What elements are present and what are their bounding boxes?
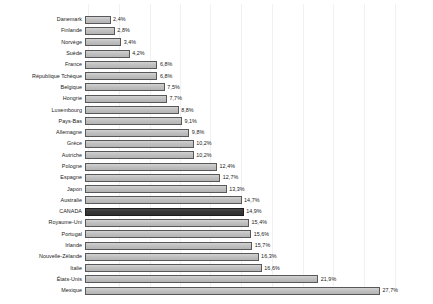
bar-zone: 16,3% [85, 251, 433, 262]
bar [85, 275, 318, 283]
bar-zone: 4,2% [85, 48, 433, 59]
bar-value-label: 7,5% [167, 84, 180, 91]
chart-row: Portugal15,6% [0, 229, 433, 240]
chart-row: République Tchèque6,8% [0, 70, 433, 81]
bar-value-label: 4,2% [132, 50, 145, 57]
category-label: Grèce [0, 140, 85, 147]
bar-zone: 10,2% [85, 138, 433, 149]
bar-zone: 16,6% [85, 263, 433, 274]
bar-value-label: 15,7% [255, 242, 271, 249]
bar-value-label: 7,7% [170, 95, 183, 102]
bar [85, 253, 259, 261]
category-label: Nouvelle-Zélande [0, 253, 85, 260]
chart-row: Espagne12,7% [0, 172, 433, 183]
bar-zone: 8,8% [85, 104, 433, 115]
chart-row: Mexique27,7% [0, 285, 433, 296]
bar [85, 196, 242, 204]
chart-row: Australie14,7% [0, 195, 433, 206]
bar [85, 117, 182, 125]
bar-zone: 14,9% [85, 206, 433, 217]
bar-zone: 7,7% [85, 93, 433, 104]
bar-value-label: 10,2% [196, 140, 212, 147]
category-label: Suède [0, 50, 85, 57]
category-label: Royaume-Uni [0, 219, 85, 226]
bar [85, 151, 194, 159]
horizontal-bar-chart: Danemark2,4%Finlande2,8%Norvège3,4%Suède… [0, 0, 433, 304]
bar-value-label: 12,4% [220, 163, 236, 170]
chart-row: Allemagne9,8% [0, 127, 433, 138]
bar-zone: 6,8% [85, 59, 433, 70]
chart-row: Royaume-Uni15,4% [0, 217, 433, 228]
chart-row: Nouvelle-Zélande16,3% [0, 251, 433, 262]
category-label: Hongrie [0, 95, 85, 102]
category-label: France [0, 61, 85, 68]
category-label: Pologne [0, 163, 85, 170]
bar-value-label: 12,7% [223, 174, 239, 181]
bar [85, 185, 227, 193]
bar-zone: 2,8% [85, 25, 433, 36]
chart-row: Autriche10,2% [0, 150, 433, 161]
bar [85, 83, 165, 91]
category-label: Belgique [0, 84, 85, 91]
bar-value-label: 8,8% [181, 107, 194, 114]
bar [85, 27, 115, 35]
bar-zone: 3,4% [85, 37, 433, 48]
bar-zone: 10,2% [85, 150, 433, 161]
chart-row: Suède4,2% [0, 48, 433, 59]
chart-bar-rows: Danemark2,4%Finlande2,8%Norvège3,4%Suède… [0, 14, 433, 296]
category-label: Allemagne [0, 129, 85, 136]
bar-zone: 6,8% [85, 70, 433, 81]
bar-zone: 27,7% [85, 285, 433, 296]
bar [85, 95, 167, 103]
category-label: République Tchèque [0, 73, 85, 80]
bar-zone: 15,7% [85, 240, 433, 251]
bar-zone: 2,4% [85, 14, 433, 25]
bar-value-label: 14,7% [244, 197, 260, 204]
category-label: Espagne [0, 174, 85, 181]
bar-zone: 21,9% [85, 274, 433, 285]
bar-value-label: 2,4% [113, 16, 126, 23]
bar [85, 163, 217, 171]
bar-zone: 9,1% [85, 116, 433, 127]
chart-row: Pologne12,4% [0, 161, 433, 172]
category-label: États-Unis [0, 276, 85, 283]
bar-value-label: 3,4% [124, 39, 137, 46]
chart-row: Pays-Bas9,1% [0, 116, 433, 127]
bar [85, 61, 157, 69]
bar [85, 174, 220, 182]
bar-value-label: 13,3% [229, 186, 245, 193]
bar [85, 219, 249, 227]
bar-zone: 12,4% [85, 161, 433, 172]
bar-zone: 13,3% [85, 183, 433, 194]
bar-zone: 7,5% [85, 82, 433, 93]
chart-row: CANADA14,9% [0, 206, 433, 217]
bar [85, 140, 194, 148]
bar-value-label: 9,1% [184, 118, 197, 125]
chart-row: Luxembourg8,8% [0, 104, 433, 115]
bar [85, 264, 262, 272]
category-label: Danemark [0, 16, 85, 23]
bar-value-label: 16,6% [264, 265, 280, 272]
bar-zone: 15,6% [85, 229, 433, 240]
bar-highlighted [85, 208, 244, 216]
category-label: Luxembourg [0, 107, 85, 114]
category-label: Mexique [0, 287, 85, 294]
bar-zone: 15,4% [85, 217, 433, 228]
bar [85, 129, 189, 137]
chart-row: Danemark2,4% [0, 14, 433, 25]
bar-value-label: 21,9% [321, 276, 337, 283]
category-label: Irlande [0, 242, 85, 249]
bar-zone: 14,7% [85, 195, 433, 206]
category-label: Autriche [0, 152, 85, 159]
chart-row: Norvège3,4% [0, 37, 433, 48]
bar [85, 106, 179, 114]
chart-row: Finlande2,8% [0, 25, 433, 36]
bar [85, 230, 251, 238]
bar-value-label: 27,7% [383, 287, 399, 294]
bar-value-label: 16,3% [261, 253, 277, 260]
bar [85, 287, 380, 295]
chart-row: Belgique7,5% [0, 82, 433, 93]
category-label: Australie [0, 197, 85, 204]
category-label: Japon [0, 186, 85, 193]
chart-row: Grèce10,2% [0, 138, 433, 149]
